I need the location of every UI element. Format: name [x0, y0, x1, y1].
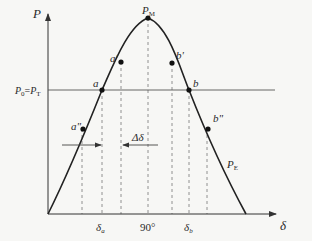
point-b-prime — [169, 60, 174, 65]
y-axis-label: P — [32, 6, 41, 21]
tick-delta-b: δb — [184, 221, 193, 235]
dashed-guides — [82, 18, 207, 214]
point-b-double-prime — [205, 126, 210, 131]
point-b-double-prime-label: b" — [213, 112, 224, 124]
point-a-double-prime-label: a" — [71, 120, 82, 132]
tick-delta-a: δa — [96, 221, 105, 235]
delta-delta-label: Δδ — [131, 131, 144, 143]
curve-label: PE — [226, 158, 238, 172]
tick-ninety: 90° — [140, 221, 155, 233]
x-axis-label: δ — [280, 218, 287, 233]
power-angle-diagram: P δ PM P0=PT a a' a" b b' b" PE Δδ δa 90… — [0, 0, 312, 241]
curve-points — [80, 15, 210, 131]
point-a-label: a — [93, 77, 99, 89]
point-b-prime-label: b' — [176, 49, 185, 61]
point-a-prime-label: a' — [110, 52, 119, 64]
peak-label: PM — [141, 4, 156, 18]
line-label: P0=PT — [14, 85, 41, 98]
point-a-double-prime — [80, 126, 85, 131]
point-a — [99, 87, 104, 92]
point-a-prime — [118, 59, 123, 64]
point-b — [186, 87, 191, 92]
point-b-label: b — [193, 77, 199, 89]
